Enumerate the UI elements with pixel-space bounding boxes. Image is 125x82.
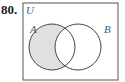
set-b-label: B — [104, 23, 111, 35]
universe-label: U — [26, 4, 35, 16]
set-a-label: A — [29, 23, 37, 35]
venn-diagram: U A B — [0, 0, 125, 82]
